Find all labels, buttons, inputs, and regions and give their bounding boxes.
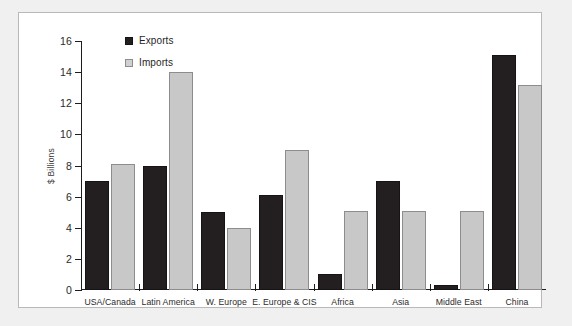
chart-card: $ Billions 0246810121416 USA/CanadaLatin… — [18, 12, 542, 308]
y-axis-tick-label: 4 — [66, 222, 72, 234]
bar-imports — [227, 228, 251, 290]
bar-imports — [111, 164, 135, 290]
bar-imports — [518, 85, 542, 290]
legend-item-imports: Imports — [125, 57, 174, 68]
bar-exports — [143, 166, 167, 291]
legend-label: Imports — [139, 57, 173, 68]
y-axis-tick-label: 14 — [60, 66, 72, 78]
bar-group: Africa — [314, 41, 372, 290]
figure-container: $ Billions 0246810121416 USA/CanadaLatin… — [0, 0, 572, 326]
y-axis-tick-label: 10 — [60, 128, 72, 140]
y-axis-tick-label: 2 — [66, 253, 72, 265]
bar-group: E. Europe & CIS — [255, 41, 313, 290]
bar-imports — [169, 72, 193, 290]
legend-swatch-exports-icon — [125, 37, 133, 45]
y-axis-tick-label: 6 — [66, 191, 72, 203]
bar-group: Asia — [372, 41, 430, 290]
bar-imports — [285, 150, 309, 290]
y-axis-tick-label: 16 — [60, 35, 72, 47]
bar-group: W. Europe — [197, 41, 255, 290]
bar-exports — [434, 285, 458, 290]
y-axis-title: $ Billions — [46, 147, 56, 183]
legend-label: Exports — [139, 35, 174, 46]
legend-item-exports: Exports — [125, 35, 174, 46]
bar-exports — [201, 212, 225, 290]
bar-imports — [460, 211, 484, 290]
x-axis-category-label: China — [474, 297, 560, 308]
bar-group: Middle East — [430, 41, 488, 290]
y-axis-tick-label: 12 — [60, 97, 72, 109]
bar-exports — [376, 181, 400, 290]
bar-exports — [492, 55, 516, 290]
y-axis-tick — [75, 290, 82, 291]
legend-swatch-imports-icon — [125, 59, 133, 67]
bar-group: China — [488, 41, 546, 290]
bar-imports — [402, 211, 426, 290]
chart-legend: ExportsImports — [125, 35, 174, 79]
y-axis-tick-label: 8 — [66, 160, 72, 172]
bar-exports — [318, 274, 342, 290]
bar-exports — [259, 195, 283, 290]
bar-exports — [85, 181, 109, 290]
bar-imports — [344, 211, 368, 290]
y-axis-tick-label: 0 — [66, 284, 72, 296]
